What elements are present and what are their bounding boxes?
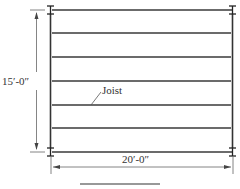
arrow-up-icon — [35, 12, 39, 19]
arrow-down-icon — [35, 143, 39, 150]
height-dimension — [30, 10, 45, 152]
arrow-right-icon — [224, 165, 231, 169]
width-dimension-label: 20′-0″ — [122, 153, 149, 165]
height-dimension-label: 15′-0″ — [2, 75, 29, 87]
arrow-left-icon — [53, 165, 60, 169]
joists — [52, 10, 232, 152]
framing-plan-diagram: 15′-0″ 20′-0″ Joist — [0, 0, 240, 189]
joist-leader-line — [91, 92, 101, 105]
joist-label: Joist — [102, 84, 122, 96]
